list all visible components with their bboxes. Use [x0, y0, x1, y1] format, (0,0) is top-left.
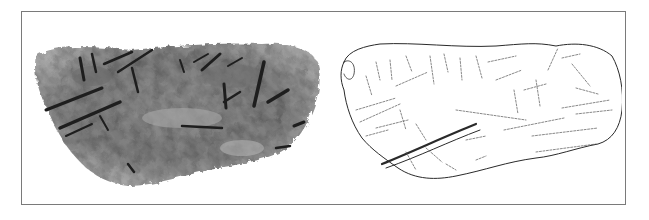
- stone-drawing-image: [336, 40, 622, 190]
- stone-photo-image: [32, 36, 322, 196]
- stone-photograph: [32, 36, 322, 196]
- stone-line-drawing: [336, 40, 622, 190]
- figure-frame: [21, 11, 626, 205]
